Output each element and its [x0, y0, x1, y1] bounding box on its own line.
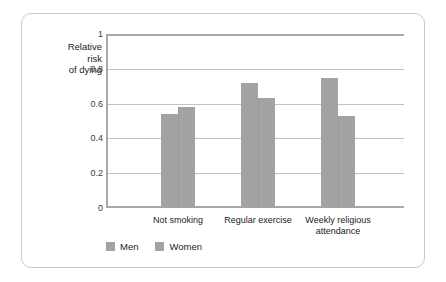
chart-legend: MenWomen: [106, 241, 202, 252]
bar-women-2: [338, 116, 355, 208]
y-tick-label: 0.4: [90, 133, 103, 143]
legend-label: Men: [120, 241, 138, 252]
bars-layer: Not smokingRegular exerciseWeekly religi…: [108, 34, 404, 208]
y-tick-label: 0.8: [90, 64, 103, 74]
y-tick-label: 0.6: [90, 99, 103, 109]
y-tick-label: 1: [98, 29, 103, 39]
bar-men-0: [161, 114, 178, 208]
legend-label: Women: [169, 241, 202, 252]
bar-women-0: [178, 107, 195, 208]
category-label: Regular exercise: [212, 215, 304, 226]
bar-group: Regular exercise: [224, 34, 292, 208]
y-tick-label: 0.2: [90, 168, 103, 178]
legend-swatch-icon: [106, 242, 115, 251]
bar-women-1: [258, 98, 275, 208]
category-label: Weekly religious attendance: [292, 215, 384, 237]
category-label: Not smoking: [132, 215, 224, 226]
chart-frame: Relative risk of dying 10.80.60.40.20 No…: [21, 13, 425, 268]
plot-area: 10.80.60.40.20 Not smokingRegular exerci…: [106, 34, 404, 208]
legend-item-women: Women: [155, 241, 202, 252]
legend-swatch-icon: [155, 242, 164, 251]
y-tick-label: 0: [98, 203, 103, 213]
bar-group: Weekly religious attendance: [304, 34, 372, 208]
bar-group: Not smoking: [144, 34, 212, 208]
bar-men-1: [241, 83, 258, 208]
bar-men-2: [321, 78, 338, 209]
legend-item-men: Men: [106, 241, 138, 252]
